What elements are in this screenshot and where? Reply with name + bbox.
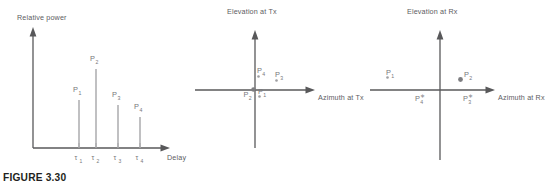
tick-label-tau2: τ 2 — [92, 154, 100, 164]
rx-point-label-p2: P 2 — [464, 70, 472, 81]
svg-text:2: 2 — [249, 95, 252, 101]
tick-label-tau4: τ 4 — [136, 154, 144, 164]
svg-text:2: 2 — [97, 158, 100, 164]
x-axis-label: Delay — [167, 153, 186, 162]
tx-chart-svg: Elevation at Tx Azimuth at Tx P 4 P 3 — [195, 0, 370, 165]
svg-text:τ: τ — [75, 154, 78, 161]
tx-azimuth-axis-arrow-icon — [306, 87, 316, 94]
rx-elevation-axis-arrow-icon — [437, 30, 444, 40]
svg-text:τ: τ — [92, 154, 95, 161]
panel-angles-at-rx: Elevation at Rx Azimuth at Rx P 1 P 2 — [370, 0, 550, 165]
figure-caption: FIGURE 3.30 — [3, 172, 66, 183]
y-axis-label: Relative power — [17, 13, 67, 22]
rx-point-p4-star-icon: ∗ — [420, 92, 425, 99]
svg-text:P: P — [90, 54, 95, 63]
panel-angles-at-tx: Elevation at Tx Azimuth at Tx P 4 P 3 — [195, 0, 370, 165]
panel-power-delay-profile: Relative power Delay P 1 P 2 P 3 P 4 — [0, 0, 195, 165]
rx-point-p1-marker — [386, 76, 389, 79]
tick-label-tau3: τ 3 — [114, 154, 122, 164]
svg-text:1: 1 — [391, 73, 394, 79]
y-axis-arrow-icon — [30, 27, 37, 37]
rx-azimuth-axis-arrow-icon — [486, 87, 496, 94]
svg-text:τ: τ — [114, 154, 117, 161]
tx-azimuth-axis-label: Azimuth at Tx — [318, 93, 364, 102]
impulse-label-p1: P 1 — [73, 85, 82, 96]
svg-text:P: P — [112, 90, 117, 99]
rx-point-p2-marker — [458, 77, 463, 82]
svg-text:P: P — [73, 85, 78, 94]
svg-text:τ: τ — [136, 154, 139, 161]
svg-text:4: 4 — [140, 107, 143, 113]
rx-point-label-p4: P 4 ∗ — [415, 92, 425, 105]
svg-text:4: 4 — [141, 158, 144, 164]
svg-text:3: 3 — [119, 158, 122, 164]
svg-text:3: 3 — [118, 95, 121, 101]
tx-point-p1-marker — [258, 95, 261, 98]
tx-point-p2-marker — [251, 87, 256, 92]
svg-text:P: P — [134, 102, 139, 111]
tx-point-p3-marker — [275, 79, 278, 82]
tick-label-tau1: τ 1 — [75, 154, 83, 164]
svg-text:1: 1 — [263, 92, 266, 98]
rx-point-p3-star-icon: ∗ — [468, 92, 473, 99]
figure-3-30: Relative power Delay P 1 P 2 P 3 P 4 — [0, 0, 550, 192]
svg-text:4: 4 — [420, 99, 423, 105]
tx-point-label-p2: P 2 — [244, 90, 252, 101]
impulse-label-p2: P 2 — [90, 54, 99, 65]
svg-text:2: 2 — [469, 75, 472, 81]
tx-panel-title: Elevation at Tx — [227, 7, 277, 16]
svg-text:1: 1 — [80, 158, 83, 164]
x-axis-arrow-icon — [161, 145, 171, 152]
delay-chart-svg: Relative power Delay P 1 P 2 P 3 P 4 — [0, 0, 195, 165]
svg-text:3: 3 — [280, 75, 283, 81]
svg-text:2: 2 — [96, 59, 99, 65]
rx-point-label-p3: P 3 ∗ — [463, 92, 473, 105]
svg-text:4: 4 — [262, 71, 265, 77]
impulse-label-p3: P 3 — [112, 90, 121, 101]
svg-text:3: 3 — [468, 99, 471, 105]
tx-point-p4-marker — [257, 75, 260, 78]
rx-azimuth-axis-label: Azimuth at Rx — [498, 93, 545, 102]
svg-text:1: 1 — [79, 90, 82, 96]
impulse-label-p4: P 4 — [134, 102, 143, 113]
rx-chart-svg: Elevation at Rx Azimuth at Rx P 1 P 2 — [370, 0, 550, 165]
tx-elevation-axis-arrow-icon — [252, 30, 259, 40]
rx-panel-title: Elevation at Rx — [407, 7, 458, 16]
